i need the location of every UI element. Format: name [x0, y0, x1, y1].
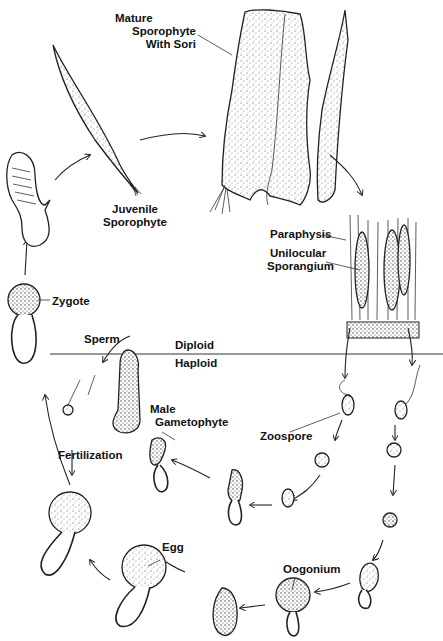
label-haploid: Haploid [175, 357, 217, 370]
label-line: Gametophyte [150, 416, 229, 429]
sorus-cross-section [345, 215, 420, 338]
label-paraphysis: Paraphysis [270, 228, 331, 241]
label-line: Juvenile [95, 203, 175, 216]
fertilized-egg [41, 492, 91, 575]
label-line: Sporangium [267, 260, 334, 273]
label-line: Unilocular [267, 247, 334, 260]
life-cycle-diagram [0, 0, 443, 641]
label-male-gametophyte: Male Gametophyte [150, 403, 229, 429]
juvenile-sporophyte-blade [53, 45, 141, 196]
label-zygote: Zygote [52, 295, 90, 308]
label-line: Mature [110, 12, 196, 25]
label-unilocular-sporangium: Unilocular Sporangium [267, 247, 334, 273]
zygote-cell [8, 284, 40, 363]
label-line: Sporophyte [95, 216, 175, 229]
cycle-arrows [25, 133, 412, 608]
label-zoospore: Zoospore [260, 430, 312, 443]
label-oogonium: Oogonium [283, 563, 341, 576]
label-egg: Egg [162, 541, 184, 554]
label-sperm: Sperm [84, 333, 120, 346]
label-diploid: Diploid [175, 339, 214, 352]
label-line: With Sori [110, 38, 196, 51]
label-line: Sporophyte [110, 25, 196, 38]
zoospores-right [383, 365, 420, 527]
label-fertilization: Fertilization [58, 449, 123, 462]
egg-cell [116, 545, 166, 627]
zoospores-left [228, 380, 354, 525]
label-juvenile-sporophyte: Juvenile Sporophyte [95, 203, 175, 229]
label-mature-sporophyte: Mature Sporophyte With Sori [110, 12, 196, 51]
label-line: Male [150, 403, 229, 416]
young-sporophyte [7, 152, 50, 246]
mature-sporophyte [210, 10, 348, 214]
